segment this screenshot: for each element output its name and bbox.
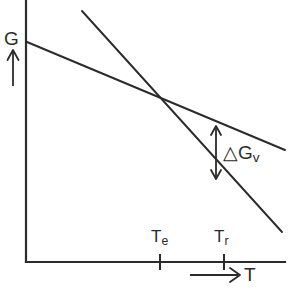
x-tick-label-tr: Tr <box>214 228 228 247</box>
delta-gv-label: △Gv <box>223 143 260 165</box>
x-tick-label-te: Te <box>151 228 168 247</box>
x-tick-label-te-sub: e <box>161 234 168 248</box>
free-energy-vs-temperature-figure: G T Te Tr △Gv <box>0 0 289 291</box>
x-tick-label-tr-sub: r <box>224 234 228 248</box>
x-tick-label-tr-main: T <box>214 227 224 246</box>
y-axis-label: G <box>4 29 19 48</box>
x-axis-direction-arrow-icon <box>190 268 240 282</box>
shallow-free-energy-line <box>27 42 285 150</box>
steep-free-energy-line <box>82 11 282 232</box>
x-axis-label: T <box>244 265 256 284</box>
y-axis-direction-arrow-icon <box>8 50 19 86</box>
x-tick-label-te-main: T <box>151 227 161 246</box>
delta-gv-arrow-icon <box>211 126 221 179</box>
delta-gv-label-main: △G <box>223 142 253 163</box>
delta-gv-label-sub: v <box>253 150 260 165</box>
